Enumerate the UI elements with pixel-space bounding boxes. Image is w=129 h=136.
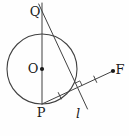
point-F-dot bbox=[111, 69, 115, 73]
geometry-figure-canvas: QOPFl bbox=[0, 0, 129, 136]
label-O: O bbox=[28, 61, 39, 76]
geometry-figure: QOPFl bbox=[0, 0, 129, 136]
point-O-dot bbox=[40, 67, 44, 71]
line-l-perpendicular-bisector bbox=[39, 4, 88, 109]
label-P: P bbox=[37, 105, 46, 120]
label-F: F bbox=[115, 62, 124, 77]
label-Q: Q bbox=[30, 4, 41, 19]
segment-PF bbox=[42, 71, 113, 104]
label-l: l bbox=[76, 106, 80, 121]
